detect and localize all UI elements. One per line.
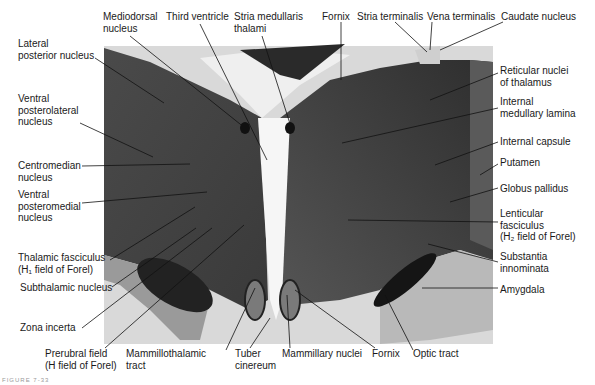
figure-caption: FIGURE 7-33 [2,377,49,383]
label-stria-medullaris-thalami: Stria medullaris thalami [234,11,303,34]
label-fornix-bottom: Fornix [372,348,400,360]
label-caudate-nucleus: Caudate nucleus [501,11,576,23]
label-internal-capsule: Internal capsule [500,136,571,148]
label-ventral-posteromedial-nucleus: Ventral posteromedial nucleus [18,189,81,224]
label-prerubral-field: Prerubral field (H field of Forel) [45,348,117,371]
label-thalamic-fasciculus: Thalamic fasciculus (H₁ field of Forel) [18,252,105,275]
label-mediodorsal-nucleus: Mediodorsal nucleus [103,11,157,34]
label-ventral-posterolateral-nucleus: Ventral posterolateral nucleus [18,93,79,128]
label-globus-pallidus: Globus pallidus [500,183,568,195]
label-mammillothalamic-tract: Mammillothalamic tract [126,348,206,371]
label-third-ventricle: Third ventricle [166,11,229,23]
label-internal-medullary-lamina: Internal medullary lamina [500,96,576,119]
label-amygdala: Amygdala [500,284,544,296]
label-subthalamic-nucleus: Subthalamic nucleus [20,282,112,294]
label-vena-terminalis: Vena terminalis [427,11,495,23]
label-substantia-innominata: Substantia innominata [500,251,549,274]
label-reticular-nuclei: Reticular nuclei of thalamus [500,65,568,88]
figure-stage: Mediodorsal nucleus Third ventricle Stri… [0,0,595,385]
label-tuber-cinereum: Tuber cinereum [235,348,276,371]
label-lenticular-fasciculus: Lenticular fasciculus (H₂ field of Forel… [500,208,576,243]
label-centromedian-nucleus: Centromedian nucleus [18,160,81,183]
label-lateral-posterior-nucleus: Lateral posterior nucleus [18,38,94,61]
label-optic-tract: Optic tract [413,348,459,360]
label-putamen: Putamen [500,157,540,169]
label-fornix-top: Fornix [322,11,350,23]
label-stria-terminalis: Stria terminalis [357,11,423,23]
label-zona-incerta: Zona incerta [20,322,76,334]
label-mammillary-nuclei: Mammillary nuclei [282,348,362,360]
